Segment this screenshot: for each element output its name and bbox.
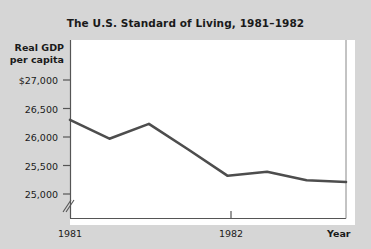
y-axis-break-icon <box>63 200 74 212</box>
data-line-real-gdp-per-capita <box>70 120 346 182</box>
chart-figure: The U.S. Standard of Living, 1981–1982 R… <box>0 0 371 249</box>
plot-svg <box>0 0 371 249</box>
